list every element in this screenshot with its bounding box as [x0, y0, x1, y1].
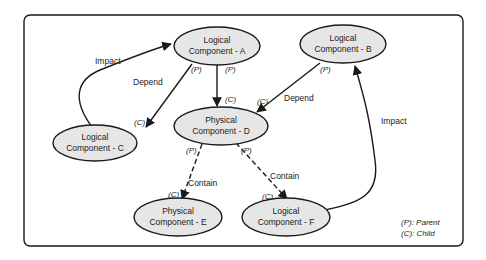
role-d-e-parent: (P): [186, 146, 197, 155]
legend-child: (C): Child: [401, 229, 435, 238]
relationship-diagram: Impact Depend Depend Impact Contain Cont…: [0, 0, 486, 260]
node-e-line1: Physical: [162, 206, 194, 216]
edge-label-contain-d-e: Contain: [188, 178, 218, 188]
edge-label-depend-a-c: Depend: [133, 77, 163, 87]
legend-parent: (P): Parent: [401, 218, 440, 227]
role-b-d-child: (C): [257, 97, 268, 106]
role-b-d-parent: (P): [320, 65, 331, 74]
role-a-c-parent: (P): [191, 65, 202, 74]
node-d-line1: Physical: [205, 115, 237, 125]
role-d-f-parent: (P): [241, 146, 252, 155]
role-a-d-parent: (P): [225, 65, 236, 74]
node-logical-component-c: Logical Component - C: [53, 125, 137, 161]
edge-label-impact-c-a: Impact: [95, 56, 121, 66]
node-a-line1: Logical: [204, 35, 231, 45]
role-a-d-child: (C): [225, 95, 236, 104]
edge-label-contain-d-f: Contain: [270, 171, 300, 181]
edge-label-depend-b-d: Depend: [284, 93, 314, 103]
node-c-line2: Component - C: [66, 143, 124, 153]
node-physical-component-d: Physical Component - D: [174, 107, 268, 145]
role-a-c-child: (C): [134, 118, 145, 127]
node-logical-component-b: Logical Component - B: [300, 25, 386, 63]
node-b-line2: Component - B: [314, 44, 371, 54]
node-e-line2: Component - E: [149, 217, 206, 227]
node-b-line1: Logical: [330, 33, 357, 43]
node-c-line1: Logical: [82, 132, 109, 142]
edge-label-impact-f-b: Impact: [381, 116, 407, 126]
node-physical-component-e: Physical Component - E: [134, 198, 222, 236]
node-logical-component-a: Logical Component - A: [174, 27, 260, 65]
node-d-line2: Component - D: [192, 126, 250, 136]
node-logical-component-f: Logical Component - F: [242, 198, 330, 236]
node-f-line1: Logical: [273, 206, 300, 216]
node-a-line2: Component - A: [189, 46, 246, 56]
node-f-line2: Component - F: [258, 217, 315, 227]
